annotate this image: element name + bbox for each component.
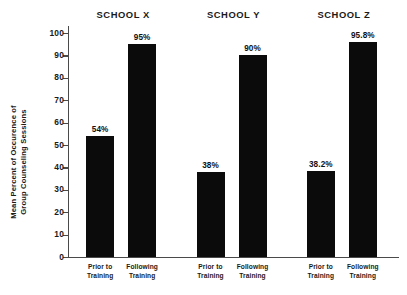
x-axis-tick-label-line-2: Training bbox=[308, 272, 334, 281]
y-axis-tick-label: 10 bbox=[54, 229, 64, 239]
bar-value-label: 38% bbox=[202, 161, 219, 170]
bar-value-label: 95% bbox=[134, 33, 151, 42]
x-axis-tick-label-line-2: Training bbox=[197, 272, 223, 281]
y-axis-title-line-1: Mean Percent of Occurence of bbox=[9, 62, 19, 262]
y-axis-tick-label: 60 bbox=[54, 117, 64, 127]
y-axis-title-line-2: Group Counseling Sessions bbox=[19, 62, 29, 262]
x-axis-tick-label-line-1: Prior to bbox=[87, 263, 113, 272]
x-axis-tick-label-line-1: Prior to bbox=[308, 263, 334, 272]
y-axis-tick-label: 20 bbox=[54, 207, 64, 217]
bar: 95% bbox=[128, 44, 156, 257]
y-axis-tick-label: 0 bbox=[59, 252, 64, 262]
y-axis-title: Mean Percent of Occurence of Group Couns… bbox=[0, 0, 26, 295]
bar: 90% bbox=[239, 55, 267, 257]
x-axis-tick-label-line-1: Following bbox=[237, 263, 269, 272]
group-title-school-y: SCHOOL Y bbox=[207, 9, 260, 20]
y-axis-tick-label: 50 bbox=[54, 140, 64, 150]
bar-value-label: 95.8% bbox=[351, 31, 375, 40]
y-axis-tick-label: 90 bbox=[54, 50, 64, 60]
bar-value-label: 38.2% bbox=[309, 160, 333, 169]
plot-area: 010203040506070809010054%95%38%90%38.2%9… bbox=[68, 33, 399, 257]
x-axis-tick-label-line-1: Following bbox=[347, 263, 379, 272]
bar-value-label: 54% bbox=[92, 125, 109, 134]
x-axis-tick-label: Prior toTraining bbox=[197, 263, 223, 280]
x-axis-tick-label: FollowingTraining bbox=[347, 263, 379, 280]
y-axis-tick-label: 80 bbox=[54, 72, 64, 82]
y-axis-tick-label: 40 bbox=[54, 162, 64, 172]
x-axis-tick-label-line-2: Training bbox=[347, 272, 379, 281]
x-axis-tick-label-line-1: Prior to bbox=[197, 263, 223, 272]
x-axis-tick-label-line-2: Training bbox=[126, 272, 158, 281]
x-axis-tick-label-line-2: Training bbox=[87, 272, 113, 281]
bar: 54% bbox=[86, 136, 114, 257]
x-axis-line bbox=[68, 257, 399, 258]
x-axis-tick-label: Prior toTraining bbox=[308, 263, 334, 280]
bar: 38.2% bbox=[307, 171, 335, 257]
bar: 38% bbox=[197, 172, 225, 257]
y-axis-tick-label: 70 bbox=[54, 95, 64, 105]
x-axis-tick-label-line-2: Training bbox=[237, 272, 269, 281]
x-axis-tick-label-line-1: Following bbox=[126, 263, 158, 272]
bar: 95.8% bbox=[349, 42, 377, 257]
bar-value-label: 90% bbox=[244, 44, 261, 53]
y-axis-tick-label: 30 bbox=[54, 184, 64, 194]
x-axis-tick-label: FollowingTraining bbox=[237, 263, 269, 280]
x-axis-tick-label: Prior toTraining bbox=[87, 263, 113, 280]
group-title-school-x: SCHOOL X bbox=[97, 9, 150, 20]
y-axis-tick-label: 100 bbox=[49, 28, 64, 38]
group-title-school-z: SCHOOL Z bbox=[317, 9, 370, 20]
bar-chart-figure: Mean Percent of Occurence of Group Couns… bbox=[0, 0, 407, 295]
x-axis-tick-label: FollowingTraining bbox=[126, 263, 158, 280]
